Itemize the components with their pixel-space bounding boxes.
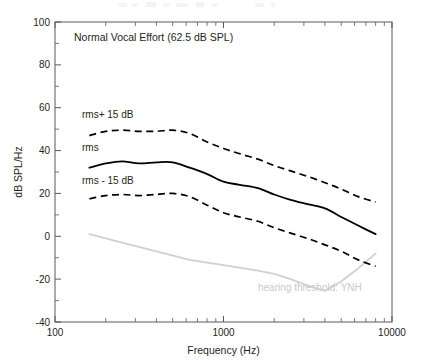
y-tick-label: 100 xyxy=(33,17,50,28)
y-tick-label: 0 xyxy=(44,231,50,242)
x-tick-label: 100 xyxy=(47,327,64,338)
plot-title: Normal Vocal Effort (62.5 dB SPL) xyxy=(74,31,233,43)
y-tick-label: 60 xyxy=(39,102,51,113)
label-hearing-threshold-ynh: hearing threshold: YNH xyxy=(258,282,362,293)
label-rms-minus-15db: rms - 15 dB xyxy=(82,175,134,186)
x-axis-ticks xyxy=(55,22,392,322)
series-rms-minus-15db xyxy=(89,193,375,266)
plot-frame xyxy=(55,22,392,322)
y-tick-label: -20 xyxy=(36,274,51,285)
y-tick-label: -40 xyxy=(36,317,51,328)
y-tick-label: 20 xyxy=(39,188,51,199)
series-rms xyxy=(89,161,375,234)
x-tick-label: 1000 xyxy=(212,327,235,338)
x-tick-label: 10000 xyxy=(378,327,406,338)
label-rms: rms xyxy=(82,142,99,153)
x-tick-labels: 100 1000 10000 xyxy=(47,327,407,338)
spectrum-chart: 100 80 60 40 20 0 -20 -40 xyxy=(0,0,422,362)
series-rms-plus-15db xyxy=(89,130,375,202)
data-curves xyxy=(89,130,375,291)
y-axis-title: dB SPL/Hz xyxy=(12,146,24,197)
y-tick-label: 80 xyxy=(39,59,51,70)
y-tick-label: 40 xyxy=(39,145,51,156)
y-axis-ticks xyxy=(55,22,61,322)
label-rms-plus-15db: rms+ 15 dB xyxy=(82,109,134,120)
scan-artifact-strip xyxy=(118,2,275,7)
figure-container: 100 80 60 40 20 0 -20 -40 xyxy=(0,0,422,362)
x-axis-title: Frequency (Hz) xyxy=(187,344,259,356)
y-tick-labels: 100 80 60 40 20 0 -20 -40 xyxy=(33,17,50,328)
